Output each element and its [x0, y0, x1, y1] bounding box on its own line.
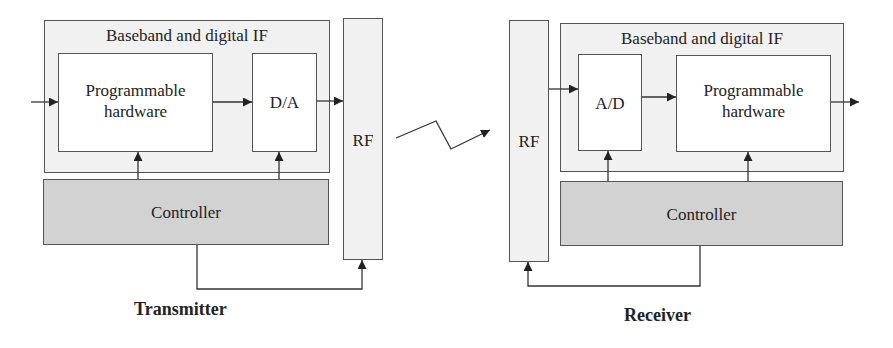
- wireless-link-arrow: [396, 121, 490, 149]
- tx-ctrl-to-rf-arrow: [197, 245, 362, 289]
- rx-ctrl-to-rf-arrow: [528, 246, 700, 286]
- connection-wires: [0, 0, 893, 348]
